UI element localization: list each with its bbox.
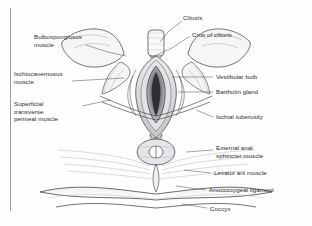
label-coccyx: Coccyx	[210, 205, 270, 213]
label-clitoris: Clitoris	[183, 14, 253, 22]
label-anococcygeal-ligament: Anococcygeal ligament	[209, 186, 311, 194]
anococcygeal-ligament	[153, 164, 159, 192]
mons-and-clitoral-hood	[148, 30, 164, 59]
label-bulbospongiosus: Bulbospongiosus muscle	[34, 33, 112, 48]
leader-anococcygeal-ligament	[176, 186, 206, 190]
label-ischial-tuberosity: Ischial tuberosity	[216, 113, 308, 121]
leader-external-anal-sphincter	[186, 150, 213, 152]
leader-ischial-tuberosity	[196, 110, 213, 117]
label-vestibular-bulb: Vestibular bulb	[216, 73, 306, 81]
label-external-anal-sphincter: External anal sphincter muscle	[216, 144, 308, 159]
leader-levator-ani	[184, 170, 211, 173]
label-crus-of-clitoris: Crus of clitoris	[192, 31, 272, 39]
external-anal-sphincter	[137, 139, 175, 165]
figure-canvas: Bulbospongiosus muscle Ischiocavernosus …	[0, 0, 312, 226]
label-superficial-transverse-perineal: Superficial transverse perineal muscle	[14, 100, 96, 123]
label-bartholin-gland: Bartholin gland	[216, 88, 306, 96]
label-ischiocavernosus: Ischiocavernosus muscle	[14, 70, 98, 85]
label-levator-ani: Levator ani muscle	[214, 169, 310, 177]
